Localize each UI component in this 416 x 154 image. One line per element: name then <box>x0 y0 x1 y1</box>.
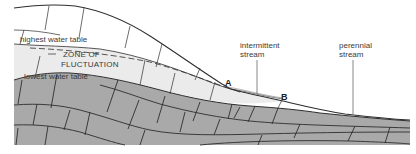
highest-water-table-label: highest water table <box>20 35 88 44</box>
cross-section-diagram: highest water table ZONE OF FLUCTUATION … <box>0 0 416 154</box>
perennial-stream-label-line2: stream <box>339 50 364 59</box>
zone-label-line1: ZONE OF <box>63 50 100 59</box>
point-b-label: B <box>281 92 288 102</box>
zone-label-line2: FLUCTUATION <box>61 60 119 69</box>
lowest-water-table-label: lowest water table <box>24 72 89 81</box>
intermittent-stream-label-line2: stream <box>240 50 265 59</box>
intermittent-stream-label-line1: intermittent <box>240 41 280 50</box>
perennial-stream-label-line1: perennial <box>339 41 372 50</box>
point-a-label: A <box>225 78 232 88</box>
